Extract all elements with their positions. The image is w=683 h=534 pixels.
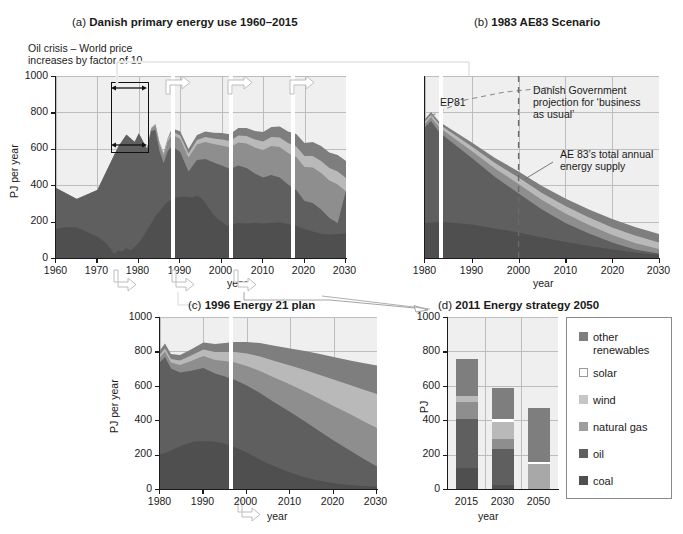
panel-b-tag: (b) bbox=[474, 16, 488, 28]
panel-b-xtick-1980: 1980 bbox=[408, 264, 441, 276]
panel-a-tag: (a) bbox=[72, 16, 86, 28]
panel-a: (a) Danish primary energy use 1960–2015 … bbox=[0, 0, 400, 300]
legend-swatch-oil bbox=[579, 449, 588, 458]
panel-b-xlabel: year bbox=[533, 277, 553, 289]
legend-swatch-natural-gas bbox=[579, 422, 588, 431]
panel-c-marker-1996 bbox=[229, 317, 233, 489]
panel-d-ylabel: PJ bbox=[418, 401, 430, 413]
panel-c-xtick-1990: 1990 bbox=[186, 495, 219, 507]
panel-c-xlabel: year bbox=[267, 510, 287, 522]
bar-2015-wind bbox=[456, 396, 478, 402]
panel-c-areas bbox=[160, 317, 377, 489]
panel-a-xtick-1980: 1980 bbox=[121, 264, 154, 276]
panel-c-title-text: 1996 Energy 21 plan bbox=[205, 299, 316, 311]
panel-b-title-text: 1983 AE83 Scenario bbox=[491, 16, 600, 28]
panel-a-ylabel: PJ per year bbox=[8, 144, 20, 198]
bar-2030 bbox=[492, 388, 514, 489]
panel-a-y-axis bbox=[55, 76, 56, 259]
panel-d-xtick-2015: 2015 bbox=[450, 495, 483, 507]
panel-a-xtick-1960: 1960 bbox=[39, 264, 72, 276]
bar-2050-solar bbox=[528, 462, 550, 465]
bar-2015 bbox=[456, 359, 478, 489]
panel-b-ep81-label: EP81 bbox=[440, 96, 466, 108]
panel-a-xlabel: year bbox=[227, 277, 247, 289]
legend-item-wind: wind bbox=[579, 394, 669, 407]
panel-a-title-text: Danish primary energy use 1960–2015 bbox=[89, 16, 297, 28]
legend-item-natural-gas: natural gas bbox=[579, 421, 669, 434]
legend-label-other-renewables: other renewables bbox=[593, 331, 649, 356]
panel-d-legend: other renewables solar wind natural gas … bbox=[566, 317, 672, 499]
legend-swatch-wind bbox=[579, 395, 588, 404]
bar-2050-natural-gas bbox=[528, 464, 550, 489]
panel-a-xtick-2020: 2020 bbox=[287, 264, 320, 276]
panel-a-xtick-2000: 2000 bbox=[204, 264, 237, 276]
legend-label-wind: wind bbox=[593, 394, 616, 407]
panel-c-tag: (c) bbox=[188, 299, 201, 311]
panel-a-xtick-1970: 1970 bbox=[80, 264, 113, 276]
panel-b-title: (b) 1983 AE83 Scenario bbox=[474, 16, 600, 28]
legend-item-oil: oil bbox=[579, 448, 669, 461]
panel-c-x-axis bbox=[159, 489, 378, 490]
panel-d-title: (d) 2011 Energy strategy 2050 bbox=[438, 299, 599, 311]
panel-c: (c) 1996 Energy 21 plan 1000 800 600 400… bbox=[140, 295, 410, 534]
panel-b-y-axis bbox=[424, 76, 425, 259]
panel-b-xtick-2010: 2010 bbox=[549, 264, 582, 276]
panel-a-ytick-0: 0 bbox=[10, 251, 48, 263]
panel-b-xtick-2000: 2000 bbox=[502, 264, 535, 276]
legend-label-solar: solar bbox=[593, 367, 617, 380]
panel-a-ytick-200: 200 bbox=[10, 214, 48, 226]
panel-a-plot bbox=[56, 76, 346, 258]
panel-a-ytick-1000: 1000 bbox=[10, 69, 48, 81]
panel-b-xtick-2030: 2030 bbox=[642, 264, 675, 276]
panel-d: (d) 2011 Energy strategy 2050 bbox=[410, 295, 683, 534]
panel-b-xtick-1990: 1990 bbox=[455, 264, 488, 276]
panel-d-y-axis bbox=[447, 317, 448, 490]
panel-d-xlabel: year bbox=[478, 510, 498, 522]
panel-d-plot bbox=[448, 317, 558, 489]
legend-swatch-solar bbox=[579, 368, 588, 377]
legend-label-natural-gas: natural gas bbox=[593, 421, 647, 434]
panel-c-ytick-1000: 1000 bbox=[114, 310, 152, 322]
legend-item-solar: solar bbox=[579, 367, 669, 380]
panel-b-ae83-annotation: AE 83’s total annual energy supply bbox=[560, 148, 653, 172]
panel-d-ytick-1000: 1000 bbox=[402, 310, 440, 322]
legend-label-coal: coal bbox=[593, 475, 613, 488]
panel-d-title-text: 2011 Energy strategy 2050 bbox=[455, 299, 599, 311]
panel-c-ytick-800: 800 bbox=[114, 344, 152, 356]
panel-b-x-axis bbox=[424, 258, 660, 259]
legend-item-coal: coal bbox=[579, 475, 669, 488]
panel-d-ytick-200: 200 bbox=[402, 447, 440, 459]
oil-crisis-annotation: Oil crisis – World price increases by fa… bbox=[28, 42, 142, 66]
bar-2050-other-renewables bbox=[528, 408, 550, 461]
panel-a-ytick-800: 800 bbox=[10, 105, 48, 117]
panel-c-xtick-1980: 1980 bbox=[143, 495, 176, 507]
panel-d-ytick-800: 800 bbox=[402, 344, 440, 356]
legend-item-other-renewables: other renewables bbox=[579, 331, 669, 356]
panel-d-x-axis bbox=[447, 489, 559, 490]
panel-c-ytick-0: 0 bbox=[114, 482, 152, 494]
panel-d-tag: (d) bbox=[438, 299, 452, 311]
bar-2015-natural-gas bbox=[456, 402, 478, 418]
panel-d-xtick-2050: 2050 bbox=[522, 495, 555, 507]
bar-2030-natural-gas bbox=[492, 439, 514, 449]
panel-c-title: (c) 1996 Energy 21 plan bbox=[188, 299, 315, 311]
panel-d-ytick-600: 600 bbox=[402, 379, 440, 391]
panel-d-xtick-2030: 2030 bbox=[486, 495, 519, 507]
bar-2030-other-renewables bbox=[492, 388, 514, 418]
panel-b-xtick-2020: 2020 bbox=[596, 264, 629, 276]
bar-2050 bbox=[528, 408, 550, 489]
panel-a-title: (a) Danish primary energy use 1960–2015 bbox=[72, 16, 298, 28]
bar-2030-wind bbox=[492, 422, 514, 439]
oil-crisis-arrows bbox=[56, 76, 346, 258]
panel-d-ytick-400: 400 bbox=[402, 413, 440, 425]
panel-d-ytick-0: 0 bbox=[402, 482, 440, 494]
panel-c-xtick-2010: 2010 bbox=[273, 495, 306, 507]
legend-swatch-coal bbox=[579, 476, 588, 485]
bar-2030-oil bbox=[492, 449, 514, 485]
legend-label-oil: oil bbox=[593, 448, 604, 461]
panel-c-plot bbox=[160, 317, 377, 489]
panel-c-xtick-2000: 2000 bbox=[229, 495, 262, 507]
panel-c-y-axis bbox=[159, 317, 160, 490]
panel-c-ytick-200: 200 bbox=[114, 447, 152, 459]
bar-2015-other-renewables bbox=[456, 359, 478, 396]
